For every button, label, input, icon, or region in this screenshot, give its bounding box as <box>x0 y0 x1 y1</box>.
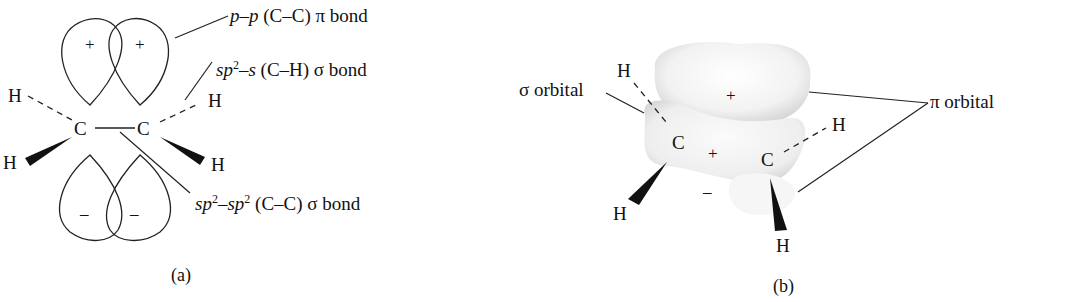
caption-b: (b) <box>773 276 794 297</box>
p-orbital-lobes-bottom <box>60 155 171 240</box>
p-orbital-lobes-top <box>62 19 169 105</box>
atom-h-upper-left: H <box>8 86 22 105</box>
atom-h-lower-left: H <box>613 204 627 223</box>
atom-h-upper-right: H <box>208 91 222 110</box>
sign-top-right: + <box>135 36 145 53</box>
atom-h-lower-right: H <box>211 155 225 174</box>
orbital-diagram <box>0 0 1071 302</box>
sign-middle: + <box>708 145 718 162</box>
sign-top-left: + <box>85 36 95 53</box>
atom-c-right: C <box>137 119 150 138</box>
pi-bond-label: p–p (C–C) π bond <box>230 6 368 25</box>
caption-a: (a) <box>171 265 191 286</box>
atom-h-lower-left: H <box>3 153 17 172</box>
sign-bottom-right: – <box>130 205 139 222</box>
atom-h-upper-right: H <box>832 115 846 134</box>
pi-orbital-label: π orbital <box>930 92 994 111</box>
atom-c-left: C <box>74 119 87 138</box>
sign-bottom-left: – <box>80 205 89 222</box>
atom-h-lower-right: H <box>776 236 790 255</box>
sign-top: + <box>726 87 736 104</box>
sign-bottom: – <box>703 183 712 200</box>
sigma-orbital-label: σ orbital <box>519 80 584 99</box>
atom-h-upper-left: H <box>617 61 631 80</box>
ch-sigma-bond-label: sp2–s (C–H) σ bond <box>216 59 367 79</box>
pi-orbital-bottom-lobe <box>729 173 795 215</box>
cc-sigma-bond-label: sp2–sp2 (C–C) σ bond <box>195 193 360 213</box>
atom-c-left: C <box>672 133 685 152</box>
atom-c-right: C <box>761 150 774 169</box>
